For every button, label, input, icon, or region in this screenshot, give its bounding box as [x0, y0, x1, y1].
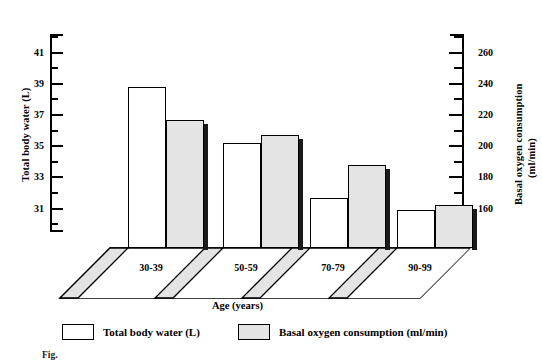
floor-inner	[78, 248, 470, 298]
left-axis-minor-tick	[50, 98, 58, 100]
figure-bar-chart: 413937353331 Total body water (L) 260240…	[0, 0, 542, 360]
right-axis-tick-label: 160	[478, 204, 512, 214]
legend-item-total-body-water: Total body water (L)	[62, 324, 200, 340]
right-axis-tick-label: 220	[478, 110, 512, 120]
bar-30-39-basal-oxygen	[166, 120, 204, 248]
category-label-90-99: 90-99	[389, 262, 451, 273]
bar-90-99-basal-oxygen	[435, 205, 473, 248]
floor-slab	[60, 248, 470, 298]
left-axis-spine	[50, 34, 52, 232]
left-axis-major-tick	[50, 208, 63, 210]
left-axis-tick-label: 31	[14, 204, 44, 214]
floor-riser-0	[60, 248, 128, 298]
left-axis-minor-tick	[50, 192, 58, 194]
right-axis-tick-label: 240	[478, 79, 512, 89]
right-axis-minor-tick	[454, 161, 462, 163]
figure-caption: Fig.	[42, 350, 58, 360]
bar-70-79-basal-oxygen	[348, 165, 386, 248]
bar-50-59-basal-oxygen	[261, 135, 299, 248]
bar-90-99-total-body-water	[397, 210, 435, 248]
category-label-70-79: 70-79	[302, 262, 364, 273]
right-axis-minor-tick	[454, 67, 462, 69]
right-axis-spine	[462, 34, 464, 232]
right-axis-tick-label: 180	[478, 172, 512, 182]
left-axis-major-tick	[50, 145, 63, 147]
bar-70-79-total-body-water	[310, 198, 348, 248]
floor-riser-4	[420, 248, 470, 298]
left-axis-major-tick	[50, 176, 63, 178]
legend-label-basal-oxygen: Basal oxygen consumption (ml/min)	[279, 326, 447, 338]
right-axis-minor-tick	[454, 130, 462, 132]
right-axis-major-tick	[449, 176, 462, 178]
left-axis-major-tick	[50, 52, 63, 54]
right-axis-tick-label: 200	[478, 141, 512, 151]
legend-label-total-body-water: Total body water (L)	[103, 326, 200, 338]
right-axis-major-tick	[449, 145, 462, 147]
right-axis-tick-label: 260	[478, 48, 512, 58]
legend-swatch-grey	[238, 324, 270, 340]
bar-30-39-total-body-water	[128, 87, 166, 248]
left-axis-minor-tick	[50, 67, 58, 69]
chart-legend: Total body water (L) Basal oxygen consum…	[0, 322, 542, 346]
floor-riser-3	[329, 248, 397, 298]
left-axis-minor-tick	[50, 223, 58, 225]
left-axis-minor-tick	[50, 36, 58, 38]
left-axis-minor-tick	[50, 130, 58, 132]
x-axis-title: Age (years)	[212, 300, 263, 311]
left-axis-cap-bottom	[50, 230, 63, 232]
floor-riser-2	[242, 248, 310, 298]
right-axis-minor-tick	[454, 192, 462, 194]
floor-riser-1	[155, 248, 223, 298]
right-axis-title-line2: (ml/min)	[526, 138, 537, 178]
right-axis-major-tick	[449, 52, 462, 54]
right-axis-major-tick	[449, 83, 462, 85]
right-axis-minor-tick	[454, 98, 462, 100]
left-axis-major-tick	[50, 114, 63, 116]
legend-item-basal-oxygen: Basal oxygen consumption (ml/min)	[238, 324, 447, 340]
left-axis-minor-tick	[50, 161, 58, 163]
right-axis-minor-tick	[454, 36, 462, 38]
legend-swatch-white	[62, 324, 94, 340]
left-axis-tick-label: 41	[14, 48, 44, 58]
left-axis-major-tick	[50, 83, 63, 85]
right-axis-major-tick	[449, 114, 462, 116]
bar-50-59-total-body-water	[223, 143, 261, 248]
category-label-30-39: 30-39	[120, 262, 182, 273]
category-label-50-59: 50-59	[215, 262, 277, 273]
right-axis-title-line1: Basal oxygen consumption	[513, 84, 524, 205]
left-axis-title: Total body water (L)	[20, 88, 31, 182]
